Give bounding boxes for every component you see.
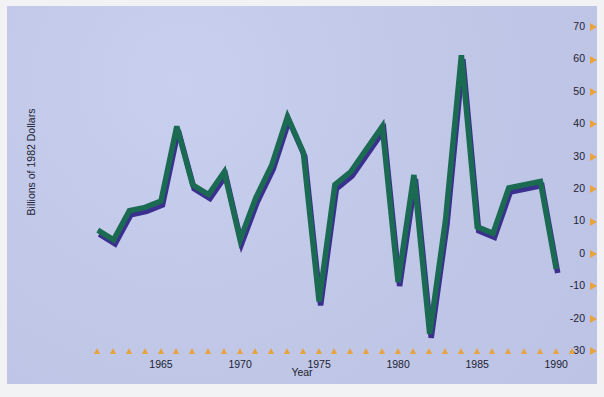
data-line-plot <box>7 6 597 384</box>
chart-figure: Billions of 1982 Dollars Year -30-20-100… <box>0 0 604 397</box>
plot-area: Billions of 1982 Dollars Year -30-20-100… <box>7 6 597 384</box>
line-shadow <box>99 59 557 338</box>
